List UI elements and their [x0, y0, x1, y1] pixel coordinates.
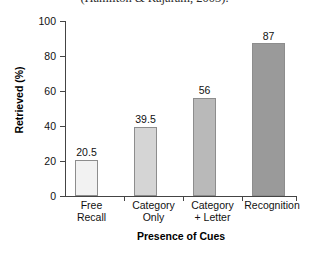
y-tick-label-0: 0	[26, 191, 56, 201]
bar-free-recall[interactable]	[75, 160, 98, 196]
x-axis-line	[65, 196, 297, 197]
bar-value-category-only: 39.5	[120, 113, 171, 125]
bar-category-plus-letter[interactable]	[193, 98, 216, 196]
bar-value-category-plus-letter: 56	[179, 84, 230, 96]
y-tick-0	[60, 196, 65, 197]
x-category-line-1: Recognition	[235, 200, 309, 212]
bar-category-only[interactable]	[134, 127, 157, 196]
y-tick-label-80: 80	[26, 51, 56, 61]
y-tick-80	[60, 56, 65, 57]
y-axis-title: Retrieved (%)	[13, 45, 25, 155]
y-tick-label-60: 60	[26, 86, 56, 96]
y-tick-40	[60, 126, 65, 127]
x-category-line-1: Free	[62, 200, 121, 212]
bar-recognition[interactable]	[252, 43, 285, 195]
x-category-label-free-recall: Free Recall	[62, 200, 121, 223]
y-tick-label-20: 20	[26, 156, 56, 166]
y-axis-line	[65, 21, 66, 197]
y-tick-20	[60, 161, 65, 162]
bar-value-recognition: 87	[243, 30, 294, 42]
x-category-label-recognition: Recognition	[235, 200, 309, 212]
x-category-line-2: + Letter	[175, 212, 250, 224]
y-tick-label-40: 40	[26, 121, 56, 131]
x-category-line-2: Recall	[62, 212, 121, 224]
y-tick-label-100: 100	[26, 16, 56, 26]
y-tick-100	[60, 21, 65, 22]
bar-chart: 100 80 60 40 20 0 Retrieved (%) 20.5 39.…	[0, 0, 309, 255]
y-tick-60	[60, 91, 65, 92]
x-axis-title: Presence of Cues	[65, 230, 297, 242]
bar-value-free-recall: 20.5	[61, 146, 112, 158]
